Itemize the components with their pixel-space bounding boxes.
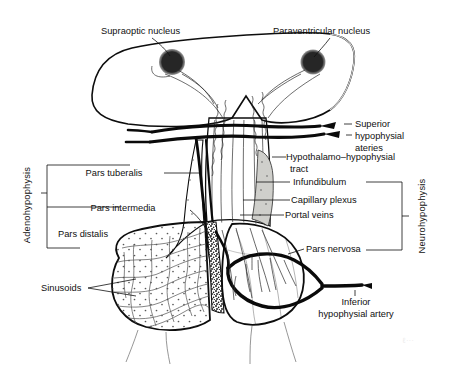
label-pars-tuberalis: Pars tuberalis [86, 168, 143, 178]
label-infundibulum: Infundibulum [293, 177, 346, 187]
label-neurohypophysis: Neurohypophysis [417, 178, 427, 253]
hypothalamus [92, 33, 354, 127]
label-hypothalamo-hypophysial-tract-line1: Hypothalamo–hypophysial [286, 152, 395, 162]
label-adenohypophysis: Adenohypophysis [22, 167, 32, 244]
label-pars-nervosa: Pars nervosa [306, 244, 362, 254]
pars-distalis [108, 218, 218, 364]
paraventricular-nucleus [301, 50, 326, 75]
figure-root: Supraoptic nucleus Paraventricular nucle… [0, 0, 451, 369]
label-superior-hypophysial-arteries-line1: Superior [355, 119, 390, 129]
hypophysis-diagram: Supraoptic nucleus Paraventricular nucle… [0, 0, 451, 369]
label-pars-intermedia: Pars intermedia [90, 203, 156, 213]
label-hypothalamo-hypophysial-tract-line2: tract [290, 164, 308, 174]
neurohypophysis-bracket [366, 182, 409, 250]
label-paraventricular-nucleus: Paraventricular nucleus [273, 26, 371, 36]
supraoptic-nucleus [159, 49, 185, 75]
pars-nervosa [222, 224, 304, 364]
label-capillary-plexus: Capillary plexus [291, 195, 357, 205]
label-inferior-hypophysial-artery-line2: hypophysial artery [318, 309, 394, 319]
label-superior-hypophysial-arteries-line2: hypophysial [355, 131, 404, 141]
label-portal-veins: Portal veins [285, 210, 334, 220]
label-supraoptic-nucleus: Supraoptic nucleus [101, 26, 180, 36]
watermark: ℓ··· [402, 336, 414, 345]
label-inferior-hypophysial-artery-line1: Inferior [342, 297, 371, 307]
label-pars-distalis: Pars distalis [58, 229, 108, 239]
label-sinusoids: Sinusoids [41, 283, 82, 293]
